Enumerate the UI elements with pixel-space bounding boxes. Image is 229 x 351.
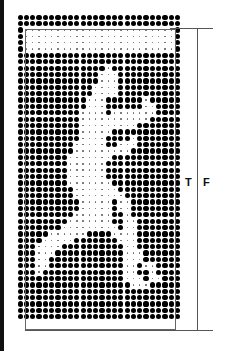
large-dot — [93, 15, 98, 20]
large-dot — [18, 59, 23, 64]
large-dot — [18, 110, 23, 115]
large-dot — [118, 15, 123, 20]
large-dot — [18, 66, 23, 71]
large-dot — [18, 263, 23, 268]
large-dot — [87, 15, 92, 20]
large-dot — [18, 85, 23, 90]
large-dot — [18, 40, 23, 45]
large-dot — [169, 15, 174, 20]
large-dot — [18, 257, 23, 262]
large-dot — [18, 15, 23, 20]
large-dot — [18, 314, 23, 319]
large-dot — [175, 21, 180, 26]
large-dot — [18, 123, 23, 128]
large-dot — [18, 206, 23, 211]
large-dot — [112, 21, 117, 26]
large-dot — [18, 276, 23, 281]
large-dot — [62, 15, 67, 20]
large-dot — [62, 21, 67, 26]
display-frame — [25, 29, 176, 330]
left-edge-bar — [0, 0, 4, 351]
bottom-leader-line — [25, 330, 213, 331]
large-dot — [18, 180, 23, 185]
large-dot — [137, 15, 142, 20]
large-dot — [18, 244, 23, 249]
large-dot — [118, 21, 123, 26]
large-dot — [18, 199, 23, 204]
large-dot — [18, 161, 23, 166]
label-t: T — [185, 176, 192, 188]
large-dot — [18, 219, 23, 224]
large-dot — [18, 78, 23, 83]
large-dot — [24, 15, 29, 20]
large-dot — [143, 21, 148, 26]
large-dot — [18, 34, 23, 39]
large-dot — [36, 21, 41, 26]
large-dot — [55, 15, 60, 20]
large-dot — [18, 142, 23, 147]
large-dot — [18, 27, 23, 32]
large-dot — [18, 91, 23, 96]
large-dot — [18, 282, 23, 287]
large-dot — [18, 212, 23, 217]
large-dot — [18, 53, 23, 58]
large-dot — [150, 15, 155, 20]
large-dot — [74, 15, 79, 20]
large-dot — [137, 21, 142, 26]
large-dot — [175, 15, 180, 20]
large-dot — [18, 174, 23, 179]
large-dot — [18, 308, 23, 313]
large-dot — [162, 21, 167, 26]
large-dot — [55, 21, 60, 26]
large-dot — [162, 15, 167, 20]
large-dot — [18, 129, 23, 134]
large-dot — [18, 187, 23, 192]
large-dot — [36, 15, 41, 20]
large-dot — [24, 21, 29, 26]
large-dot — [125, 15, 130, 20]
large-dot — [18, 225, 23, 230]
large-dot — [30, 15, 35, 20]
large-dot — [150, 21, 155, 26]
large-dot — [18, 97, 23, 102]
large-dot — [43, 21, 48, 26]
large-dot — [18, 104, 23, 109]
large-dot — [18, 238, 23, 243]
large-dot — [18, 193, 23, 198]
large-dot — [18, 46, 23, 51]
large-dot — [49, 21, 54, 26]
large-dot — [131, 15, 136, 20]
large-dot — [18, 289, 23, 294]
large-dot — [68, 21, 73, 26]
large-dot — [18, 155, 23, 160]
large-dot — [18, 21, 23, 26]
dimension-line-f — [197, 28, 198, 330]
large-dot — [18, 270, 23, 275]
large-dot — [93, 21, 98, 26]
large-dot — [99, 15, 104, 20]
label-f: F — [203, 176, 210, 188]
large-dot — [125, 21, 130, 26]
large-dot — [18, 231, 23, 236]
large-dot — [30, 21, 35, 26]
large-dot — [169, 21, 174, 26]
large-dot — [112, 15, 117, 20]
top-leader-line — [170, 28, 213, 29]
large-dot — [131, 21, 136, 26]
large-dot — [156, 15, 161, 20]
large-dot — [68, 15, 73, 20]
large-dot — [74, 21, 79, 26]
large-dot — [18, 136, 23, 141]
large-dot — [81, 21, 86, 26]
large-dot — [106, 21, 111, 26]
large-dot — [143, 15, 148, 20]
large-dot — [18, 168, 23, 173]
large-dot — [106, 15, 111, 20]
large-dot — [49, 15, 54, 20]
large-dot — [18, 301, 23, 306]
large-dot — [18, 250, 23, 255]
large-dot — [18, 117, 23, 122]
large-dot — [99, 21, 104, 26]
large-dot — [87, 21, 92, 26]
large-dot — [81, 15, 86, 20]
